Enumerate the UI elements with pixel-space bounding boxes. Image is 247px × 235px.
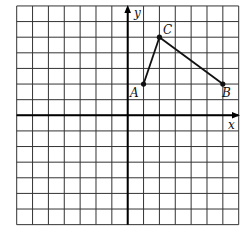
segment-ac — [144, 37, 160, 84]
triangle-abc — [141, 35, 225, 87]
point-c-dot — [157, 35, 162, 40]
point-label-c: C — [163, 23, 172, 37]
point-labels: A B C — [129, 23, 231, 100]
point-label-b: B — [221, 86, 231, 100]
coordinate-plane: x y A B C — [0, 0, 247, 235]
point-label-a: A — [129, 86, 139, 100]
x-axis-label: x — [228, 118, 235, 132]
point-a-dot — [141, 81, 146, 86]
y-axis-label: y — [133, 6, 141, 20]
